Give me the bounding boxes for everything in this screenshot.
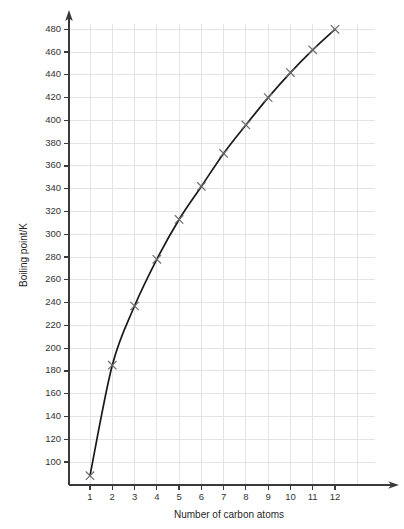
y-axis-tick-label: 460 [45, 46, 61, 57]
y-axis-tick-label: 420 [45, 91, 61, 102]
y-axis-tick-label: 380 [45, 137, 61, 148]
y-axis-tick-label: 200 [45, 342, 61, 353]
y-axis-tick-label: 120 [45, 433, 61, 444]
y-axis-tick-label: 400 [45, 114, 61, 125]
y-axis-title: Boiling point/K [18, 223, 29, 287]
y-axis-tick-label: 320 [45, 205, 61, 216]
x-axis-tick-label: 8 [243, 491, 248, 502]
x-axis-tick-label: 6 [199, 491, 204, 502]
boiling-point-curve [90, 29, 335, 475]
y-axis-tick-label: 480 [45, 23, 61, 34]
boiling-point-line-chart: 1001201401601802002202402602803003203403… [0, 0, 404, 529]
x-axis-tick-labels: 123456789101112 [87, 491, 340, 502]
y-axis-tick-label: 240 [45, 296, 61, 307]
y-axis-tick-label: 140 [45, 410, 61, 421]
data-series-layer [86, 25, 339, 480]
x-axis-tick-label: 4 [154, 491, 159, 502]
y-axis-tick-label: 260 [45, 273, 61, 284]
y-axis-tick-label: 300 [45, 228, 61, 239]
y-axis-tick-label: 280 [45, 251, 61, 262]
x-axis-tick-label: 2 [110, 491, 115, 502]
y-axis-tick-label: 440 [45, 68, 61, 79]
y-axis-tick-label: 100 [45, 456, 61, 467]
y-axis-tick-labels: 1001201401601802002202402602803003203403… [45, 23, 61, 467]
x-axis-tick-label: 9 [266, 491, 271, 502]
x-axis-tick-label: 5 [176, 491, 181, 502]
grid-layer [69, 24, 375, 485]
x-axis-tick-label: 11 [308, 491, 318, 502]
y-axis-tick-label: 180 [45, 364, 61, 375]
x-axis-tick-label: 10 [285, 491, 296, 502]
axis-layer [64, 10, 399, 490]
chart-container: 1001201401601802002202402602803003203403… [0, 0, 404, 529]
y-axis-tick-label: 340 [45, 182, 61, 193]
x-axis-title: Number of carbon atoms [174, 509, 284, 520]
x-axis-tick-label: 3 [132, 491, 137, 502]
x-axis-tick-label: 12 [330, 491, 341, 502]
x-axis-tick-label: 7 [221, 491, 226, 502]
y-axis-tick-label: 160 [45, 387, 61, 398]
x-axis-tick-label: 1 [87, 491, 92, 502]
y-axis-tick-label: 360 [45, 159, 61, 170]
y-axis-tick-label: 220 [45, 319, 61, 330]
